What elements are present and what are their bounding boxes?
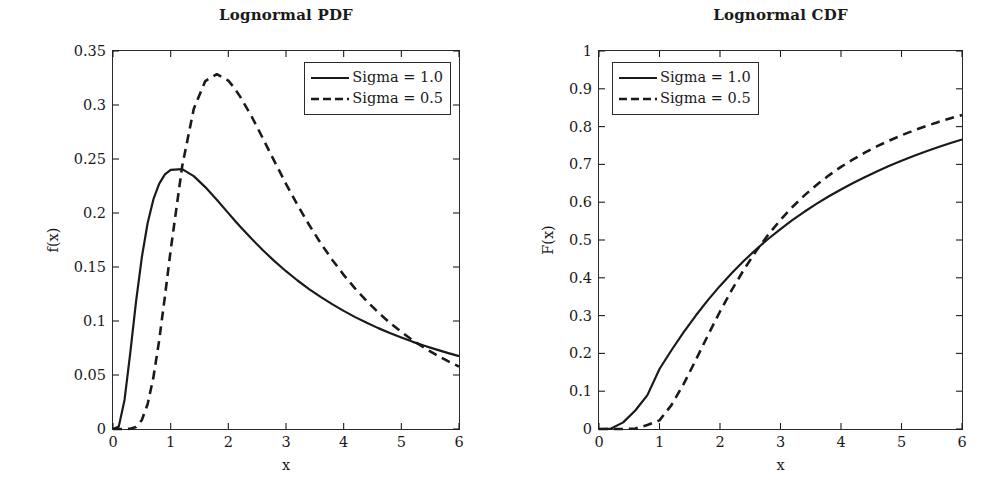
y-tick-label: 0.25 xyxy=(74,151,106,167)
y-tick-label: 0.5 xyxy=(569,232,592,248)
legend-entry-sigma-1[interactable]: Sigma = 1.0 xyxy=(618,67,751,88)
legend-line-dashed-icon xyxy=(618,93,658,105)
panel-lognormal-pdf: Lognormal PDF 00.050.10.150.20.250.30.35… xyxy=(0,0,498,501)
legend-label-sigma-05: Sigma = 0.5 xyxy=(352,91,443,106)
x-tick-label: 1 xyxy=(166,434,175,450)
ylabel-pdf: f(x) xyxy=(45,228,61,253)
y-tick-label: 0.1 xyxy=(83,313,106,329)
y-tick-label: 0.9 xyxy=(569,81,592,97)
panel-lognormal-cdf: Lognormal CDF 00.10.20.30.40.50.60.70.80… xyxy=(498,0,996,501)
legend-label-sigma-1: Sigma = 1.0 xyxy=(660,70,751,85)
panel-title-pdf: Lognormal PDF xyxy=(112,6,460,24)
series-line-2 xyxy=(113,74,459,429)
y-tick-label: 0.05 xyxy=(74,367,106,383)
legend-label-sigma-1: Sigma = 1.0 xyxy=(352,70,443,85)
x-tick-label: 5 xyxy=(397,434,406,450)
y-tick-label: 0.2 xyxy=(83,205,106,221)
y-tick-label: 0.3 xyxy=(83,97,106,113)
legend-pdf[interactable]: Sigma = 1.0 Sigma = 0.5 xyxy=(304,62,451,115)
x-tick-label: 2 xyxy=(715,434,724,450)
y-tick-label: 0.8 xyxy=(569,119,592,135)
y-tick-label: 0 xyxy=(97,421,106,437)
x-tick-label: 0 xyxy=(594,434,603,450)
x-tick-label: 6 xyxy=(957,434,966,450)
legend-cdf[interactable]: Sigma = 1.0 Sigma = 0.5 xyxy=(612,62,759,115)
axes-pdf: 00.050.10.150.20.250.30.350123456 f(x) x… xyxy=(112,50,460,430)
y-tick-label: 0.6 xyxy=(569,194,592,210)
legend-entry-sigma-05[interactable]: Sigma = 0.5 xyxy=(618,88,751,109)
x-tick-label: 0 xyxy=(108,434,117,450)
x-tick-label: 2 xyxy=(224,434,233,450)
figure-canvas: Lognormal PDF 00.050.10.150.20.250.30.35… xyxy=(0,0,996,501)
legend-line-solid-icon xyxy=(310,72,350,84)
x-tick-label: 3 xyxy=(281,434,290,450)
y-tick-label: 0.1 xyxy=(569,383,592,399)
y-tick-label: 0.4 xyxy=(569,270,592,286)
x-tick-label: 6 xyxy=(454,434,463,450)
x-tick-label: 3 xyxy=(776,434,785,450)
xlabel-cdf: x xyxy=(599,457,962,473)
panel-title-cdf: Lognormal CDF xyxy=(598,6,963,24)
series-line-1 xyxy=(599,139,962,429)
x-tick-label: 5 xyxy=(897,434,906,450)
x-tick-label: 1 xyxy=(655,434,664,450)
legend-entry-sigma-1[interactable]: Sigma = 1.0 xyxy=(310,67,443,88)
legend-entry-sigma-05[interactable]: Sigma = 0.5 xyxy=(310,88,443,109)
ylabel-cdf: F(x) xyxy=(540,225,556,255)
x-tick-label: 4 xyxy=(339,434,348,450)
legend-label-sigma-05: Sigma = 0.5 xyxy=(660,91,751,106)
y-tick-label: 0.35 xyxy=(74,43,106,59)
x-tick-label: 4 xyxy=(836,434,845,450)
legend-line-dashed-icon xyxy=(310,93,350,105)
axes-cdf: 00.10.20.30.40.50.60.70.80.910123456 F(x… xyxy=(598,50,963,430)
y-tick-label: 1 xyxy=(583,43,592,59)
y-tick-label: 0 xyxy=(583,421,592,437)
y-tick-label: 0.2 xyxy=(569,345,592,361)
y-tick-label: 0.3 xyxy=(569,308,592,324)
y-tick-label: 0.15 xyxy=(74,259,106,275)
y-tick-label: 0.7 xyxy=(569,156,592,172)
legend-line-solid-icon xyxy=(618,72,658,84)
xlabel-pdf: x xyxy=(113,457,459,473)
